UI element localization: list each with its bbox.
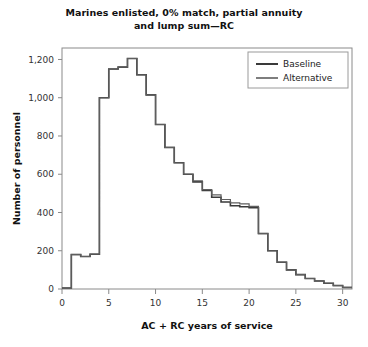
legend-label-alternative: Alternative <box>283 73 333 83</box>
y-tick-label: 200 <box>37 246 54 256</box>
chart-legend: BaselineAlternative <box>248 52 348 88</box>
y-tick-label: 1,200 <box>28 55 54 65</box>
y-axis: 02004006008001,0001,200 <box>28 55 62 295</box>
x-axis-title: AC + RC years of service <box>141 320 272 331</box>
x-axis: 051015202530 <box>59 289 349 308</box>
legend-label-baseline: Baseline <box>283 59 322 69</box>
y-tick-label: 0 <box>48 284 54 294</box>
chart-plot-area: 02004006008001,0001,200 051015202530 Bas… <box>0 0 368 347</box>
x-tick-label: 5 <box>106 298 112 308</box>
x-tick-label: 15 <box>197 298 208 308</box>
chart-figure: Marines enlisted, 0% match, partial annu… <box>0 0 368 347</box>
y-tick-label: 800 <box>37 131 54 141</box>
x-tick-label: 10 <box>150 298 162 308</box>
y-axis-title: Number of personnel <box>11 112 22 225</box>
y-tick-label: 400 <box>37 208 54 218</box>
series-line-alternative <box>62 59 352 289</box>
y-tick-label: 600 <box>37 169 54 179</box>
series-line-baseline <box>62 59 352 289</box>
x-tick-label: 30 <box>337 298 349 308</box>
x-tick-label: 25 <box>290 298 301 308</box>
x-tick-label: 0 <box>59 298 65 308</box>
series-group <box>62 59 352 289</box>
y-tick-label: 1,000 <box>28 93 54 103</box>
x-tick-label: 20 <box>243 298 255 308</box>
